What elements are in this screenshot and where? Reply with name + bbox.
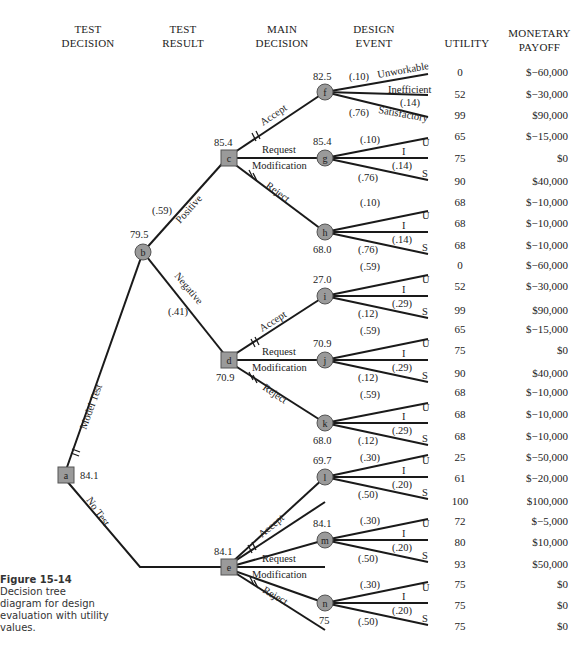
branch-prob-positive: (.59): [152, 205, 173, 217]
event-label-i: I: [402, 411, 406, 422]
decision-node-e: e: [221, 559, 237, 575]
figure-caption: Figure 15-14 Decision tree diagram for d…: [0, 574, 110, 634]
utility-value: 0: [440, 259, 480, 271]
payoff-value: $10,000: [488, 536, 568, 548]
payoff-value: $−10,000: [488, 386, 568, 398]
prob-j-i: (.29): [392, 362, 413, 374]
svg-text:g: g: [323, 153, 328, 164]
event-label-unworkable: Unworkable: [376, 60, 429, 80]
svg-text:b: b: [141, 247, 146, 258]
branch-label-request-c: Request: [262, 144, 296, 155]
payoff-value: $−15,000: [488, 130, 568, 142]
event-label-s: S: [422, 370, 428, 381]
event-label-s: S: [422, 613, 428, 624]
prob-g-i: (.14): [392, 160, 413, 172]
chance-node-k: k: [317, 415, 333, 431]
payoff-value: $40,000: [488, 175, 568, 187]
svg-text:i: i: [324, 291, 327, 302]
utility-value: 90: [440, 175, 480, 187]
node-value-n: 75: [319, 615, 330, 626]
utility-value: 68: [440, 196, 480, 208]
branch-label-reject-e: Reject: [261, 584, 290, 607]
payoff-value: $−10,000: [488, 408, 568, 420]
event-label-i: I: [402, 220, 406, 231]
event-label-u: U: [422, 455, 430, 466]
branch-label-modification-d: Modification: [252, 362, 308, 373]
node-value-f: 82.5: [313, 71, 331, 82]
utility-value: 68: [440, 408, 480, 420]
utility-value: 65: [440, 130, 480, 142]
node-value-m: 84.1: [313, 518, 331, 529]
node-value-c: 85.4: [214, 137, 233, 148]
chance-node-h: h: [317, 224, 333, 240]
svg-text:d: d: [227, 355, 232, 366]
tree-branches-e: [229, 477, 325, 603]
utility-value: 0: [440, 66, 480, 78]
chance-node-b: b: [135, 244, 151, 260]
chance-node-l: l: [317, 469, 333, 485]
figure-caption-text: Decision tree diagram for design evaluat…: [0, 586, 109, 633]
decision-node-a: a: [58, 467, 74, 483]
branch-label-model-test: Model Test: [78, 382, 105, 430]
prob-l-u: (.30): [360, 452, 381, 464]
event-label-u: U: [422, 210, 430, 221]
payoff-value: $0: [488, 578, 568, 590]
prob-g-u: (.10): [360, 134, 381, 146]
node-value-d: 70.9: [216, 372, 234, 383]
svg-text:c: c: [227, 153, 232, 164]
utility-value: 65: [440, 323, 480, 335]
payoff-value: $−60,000: [488, 259, 568, 271]
chance-node-n: n: [317, 595, 333, 611]
branch-label-accept-e: Accept: [256, 512, 286, 540]
event-label-u: U: [422, 137, 430, 148]
event-label-s: S: [422, 433, 428, 444]
utility-value: 72: [440, 515, 480, 527]
payoff-value: $−20,000: [488, 472, 568, 484]
utility-value: 68: [440, 430, 480, 442]
event-label-s: S: [422, 487, 428, 498]
payoff-value: $−50,000: [488, 451, 568, 463]
event-label-s: S: [422, 242, 428, 253]
prob-n-s: (.50): [358, 616, 379, 628]
chance-node-j: j: [317, 352, 333, 368]
utility-value: 68: [440, 239, 480, 251]
event-label-i: I: [402, 591, 406, 602]
prob-n-u: (.30): [360, 579, 381, 591]
payoff-value: $0: [488, 152, 568, 164]
node-value-b: 79.5: [130, 229, 148, 240]
event-label-s: S: [422, 168, 428, 179]
payoff-value: $−30,000: [488, 88, 568, 100]
payoff-value: $−30,000: [488, 280, 568, 292]
prob-i-u: (.59): [360, 261, 381, 273]
node-value-e: 84.1: [214, 546, 232, 557]
prob-f-u: (.10): [349, 71, 370, 83]
prob-j-u: (.59): [360, 325, 381, 337]
utility-value: 61: [440, 472, 480, 484]
branch-label-request-d: Request: [262, 346, 296, 357]
payoff-value: $−15,000: [488, 323, 568, 335]
event-label-s: S: [422, 550, 428, 561]
utility-value: 25: [440, 451, 480, 463]
payoff-value: $−5,000: [488, 515, 568, 527]
prob-i-i: (.29): [392, 298, 413, 310]
branch-label-reject-c: Reject: [264, 180, 292, 205]
branch-label-no-test: No Test: [84, 495, 112, 528]
chance-node-i: i: [317, 288, 333, 304]
event-label-i: I: [402, 348, 406, 359]
svg-text:j: j: [323, 355, 327, 366]
chance-node-m: m: [317, 532, 333, 548]
payoff-value: $40,000: [488, 367, 568, 379]
prob-n-i: (.20): [392, 605, 413, 617]
branch-prob-negative: (.41): [168, 306, 189, 318]
svg-text:e: e: [227, 562, 232, 573]
event-label-u: U: [422, 338, 430, 349]
branch-label-request-e: Request: [262, 553, 296, 564]
branch-label-reject-d: Reject: [261, 382, 289, 406]
utility-value: 80: [440, 536, 480, 548]
prob-f-i: (.14): [400, 97, 421, 109]
event-label-inefficient: Inefficient: [388, 84, 432, 95]
prob-l-s: (.50): [358, 489, 379, 501]
utility-value: 68: [440, 386, 480, 398]
utility-value: 75: [440, 152, 480, 164]
node-value-k: 68.0: [313, 435, 331, 446]
